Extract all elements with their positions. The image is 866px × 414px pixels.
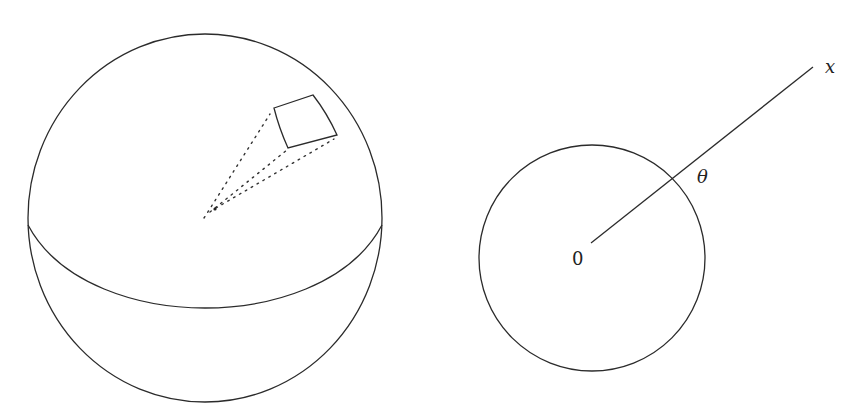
x-label: x [825,56,835,77]
circle-figure: 0 θ x [479,56,835,371]
dotted-line [216,139,334,208]
ray-line [591,67,813,243]
sphere-equator [28,225,382,308]
theta-label: θ [697,166,708,187]
origin-label: 0 [572,248,583,269]
dotted-line [210,150,287,212]
diagram: 0 θ x [0,0,866,414]
sphere-outline [28,34,382,402]
sphere-center-point [213,207,216,210]
surface-patch [274,95,337,148]
projection-lines [204,114,334,218]
sphere-figure [28,34,382,402]
dotted-line [204,114,270,218]
